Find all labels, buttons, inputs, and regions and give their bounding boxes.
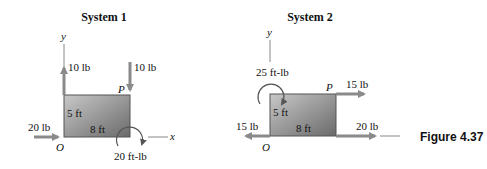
y-axis-label: y	[266, 26, 272, 38]
point-p-label: P	[325, 81, 333, 93]
origin-label: O	[56, 141, 64, 153]
system-2: System 2 y 25 ft-lb P 15 lb 15 lb 20 lb …	[236, 10, 400, 153]
figure-label: Figure 4.37	[420, 130, 484, 144]
figure-canvas: System 1 y x 10 lb 10 lb P 20 lb O 5 ft …	[0, 0, 487, 169]
system-2-title: System 2	[287, 10, 333, 24]
moment-label: 25 ft-lb	[256, 66, 289, 78]
system-1-title: System 1	[81, 10, 127, 24]
force-label-right: 20 lb	[28, 121, 51, 133]
dim-width: 8 ft	[296, 122, 311, 134]
system-1: System 1 y x 10 lb 10 lb P 20 lb O 5 ft …	[28, 10, 175, 162]
y-axis-label: y	[60, 30, 66, 42]
force-label-down: 10 lb	[134, 61, 157, 73]
force-label-p-right: 15 lb	[346, 78, 369, 90]
force-label-left: 15 lb	[236, 120, 259, 132]
dim-height: 5 ft	[67, 107, 82, 119]
dim-width: 8 ft	[90, 123, 105, 135]
force-label-up: 10 lb	[68, 61, 91, 73]
moment-label: 20 ft-lb	[114, 150, 147, 162]
point-p-label: P	[117, 83, 125, 95]
x-axis-label: x	[169, 130, 175, 142]
force-label-bottom-right: 20 lb	[356, 120, 379, 132]
origin-label: O	[262, 141, 270, 153]
dim-height: 5 ft	[273, 106, 288, 118]
